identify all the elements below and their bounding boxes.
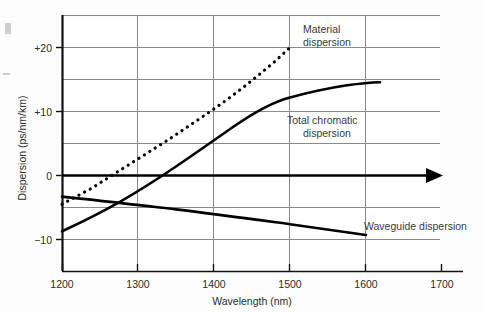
page-speck-upper [5, 23, 11, 34]
annotation-material-line2: dispersion [303, 36, 351, 48]
x-tick-label-1200: 1200 [50, 278, 74, 290]
dispersion-chart: +20 +10 0 −10 1200 1300 1400 1500 1600 1… [0, 0, 483, 312]
y-axis-title: Dispersion (ps/nm/km) [16, 95, 28, 200]
y-tick-label-0: 0 [46, 170, 52, 182]
x-tick-label-1300: 1300 [126, 278, 150, 290]
plot-area-background [62, 18, 440, 272]
x-tick-label-1600: 1600 [354, 278, 378, 290]
chart-page: +20 +10 0 −10 1200 1300 1400 1500 1600 1… [0, 0, 483, 312]
y-tick-label-minus10: −10 [34, 234, 52, 246]
annotation-waveguide-dispersion: Waveguide dispersion [364, 220, 467, 232]
x-tick-label-1400: 1400 [202, 278, 226, 290]
annotation-material-line1: Material [303, 23, 340, 35]
y-tick-label-20: +20 [34, 42, 52, 54]
annotation-waveguide-line1: Waveguide dispersion [364, 220, 467, 232]
x-tick-label-1500: 1500 [278, 278, 302, 290]
y-tick-label-10: +10 [34, 106, 52, 118]
annotation-total-chromatic-line2: dispersion [303, 127, 351, 139]
annotation-total-chromatic-line1: Total chromatic [287, 114, 358, 126]
x-tick-label-1700: 1700 [430, 278, 454, 290]
page-speck-lower [3, 73, 10, 75]
x-axis-title: Wavelength (nm) [212, 295, 292, 307]
